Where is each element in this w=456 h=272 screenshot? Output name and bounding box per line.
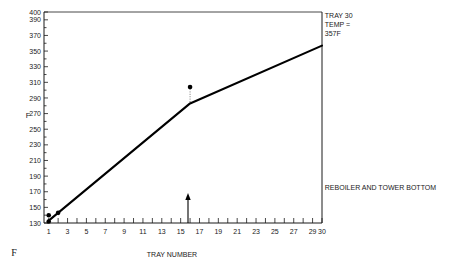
x-tick-label: 27 <box>290 228 298 235</box>
x-tick-label: 15 <box>177 228 185 235</box>
x-tick-label: 19 <box>214 228 222 235</box>
point-tray16-measured <box>188 85 193 90</box>
y-tick-label: 290 <box>29 95 41 102</box>
chart-figure: 1301501701902102302502702903103303503703… <box>0 0 456 272</box>
x-tick-label: 9 <box>122 228 126 235</box>
chart-annotations: TRAY 30TEMP =357FREBOILER AND TOWER BOTT… <box>325 12 436 191</box>
y-tick-label: 210 <box>29 157 41 164</box>
x-tick-label: 13 <box>158 228 166 235</box>
x-tick-label: 30 <box>318 228 326 235</box>
y-tick-label: 270 <box>29 110 41 117</box>
corner-unit-label: F <box>11 247 17 258</box>
tray30-temp-note: TEMP = <box>325 21 350 28</box>
y-tick-label: 250 <box>29 126 41 133</box>
plot-frame <box>44 12 322 223</box>
point-tray1-high <box>46 213 51 218</box>
y-tick-label: 130 <box>29 220 41 227</box>
point-tray1-low <box>46 219 51 224</box>
data-point-markers <box>46 85 192 224</box>
y-tick-label: 170 <box>29 188 41 195</box>
point-tray2 <box>56 211 61 216</box>
y-tick-label: 370 <box>29 32 41 39</box>
x-tick-label: 25 <box>271 228 279 235</box>
x-tick-label: 3 <box>66 228 70 235</box>
temperature-profile-line <box>49 46 322 221</box>
y-axis-ticks <box>44 12 48 223</box>
x-tick-label: 17 <box>196 228 204 235</box>
reboiler-note: REBOILER AND TOWER BOTTOM <box>325 184 436 191</box>
y-tick-label: 330 <box>29 63 41 70</box>
y-axis-tick-labels: 1301501701902102302502702903103303503703… <box>29 9 41 227</box>
y-tick-label: 400 <box>29 9 41 16</box>
x-tick-label: 5 <box>84 228 88 235</box>
x-tick-label: 1 <box>47 228 51 235</box>
tray-temperature-chart: 1301501701902102302502702903103303503703… <box>0 0 456 272</box>
x-tick-label: 23 <box>252 228 260 235</box>
y-tick-label: 190 <box>29 173 41 180</box>
x-axis-ticks <box>49 218 322 223</box>
y-tick-label: 350 <box>29 48 41 55</box>
x-tick-label: 7 <box>103 228 107 235</box>
y-tick-label: 230 <box>29 141 41 148</box>
tray30-temp-note: TRAY 30 <box>325 12 353 19</box>
y-axis-label: F <box>26 111 31 120</box>
x-tick-label: 21 <box>233 228 241 235</box>
y-tick-label: 390 <box>29 16 41 23</box>
y-tick-label: 150 <box>29 204 41 211</box>
x-tick-label: 29 <box>309 228 317 235</box>
tray30-temp-note: 357F <box>325 30 341 37</box>
x-axis-tick-labels: 135791113151719212325272930 <box>47 228 326 235</box>
x-axis-title: TRAY NUMBER <box>147 251 197 258</box>
x-tick-label: 11 <box>139 228 146 235</box>
y-tick-label: 310 <box>29 79 41 86</box>
